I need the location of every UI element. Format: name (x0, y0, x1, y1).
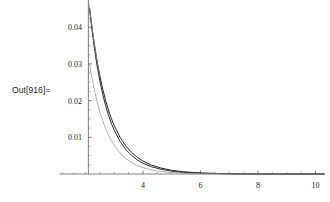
x-tick-label: 6 (199, 181, 203, 190)
y-tick-label: 0.03 (58, 59, 82, 68)
plot-area: 0.010.020.030.0446810 (0, 0, 330, 202)
x-tick-label: 8 (256, 181, 260, 190)
series-layer (88, 0, 324, 174)
plot-svg (0, 0, 330, 202)
notebook-output-cell: Out[916]= 0.010.020.030.0446810 (0, 0, 330, 202)
x-tick-label: 10 (312, 181, 320, 190)
y-tick-label: 0.01 (58, 133, 82, 142)
series-line (88, 0, 100, 76)
axes-layer (59, 0, 324, 174)
series-line (90, 64, 325, 174)
y-tick-label: 0.02 (58, 96, 82, 105)
series-line (90, 8, 325, 174)
series-line (90, 8, 325, 174)
y-tick-label: 0.04 (58, 23, 82, 32)
x-tick-label: 4 (141, 181, 145, 190)
